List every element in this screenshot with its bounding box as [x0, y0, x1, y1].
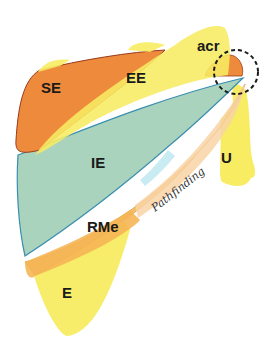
anatomy-diagram: SE EE acr IE U RMe E Pathfinding — [0, 0, 276, 338]
label-ee: EE — [126, 69, 146, 86]
label-se: SE — [41, 79, 61, 96]
label-u: U — [221, 149, 232, 166]
label-rme: RMe — [87, 218, 119, 235]
label-acr: acr — [197, 37, 220, 54]
label-e: E — [62, 284, 72, 301]
label-ie: IE — [91, 154, 105, 171]
